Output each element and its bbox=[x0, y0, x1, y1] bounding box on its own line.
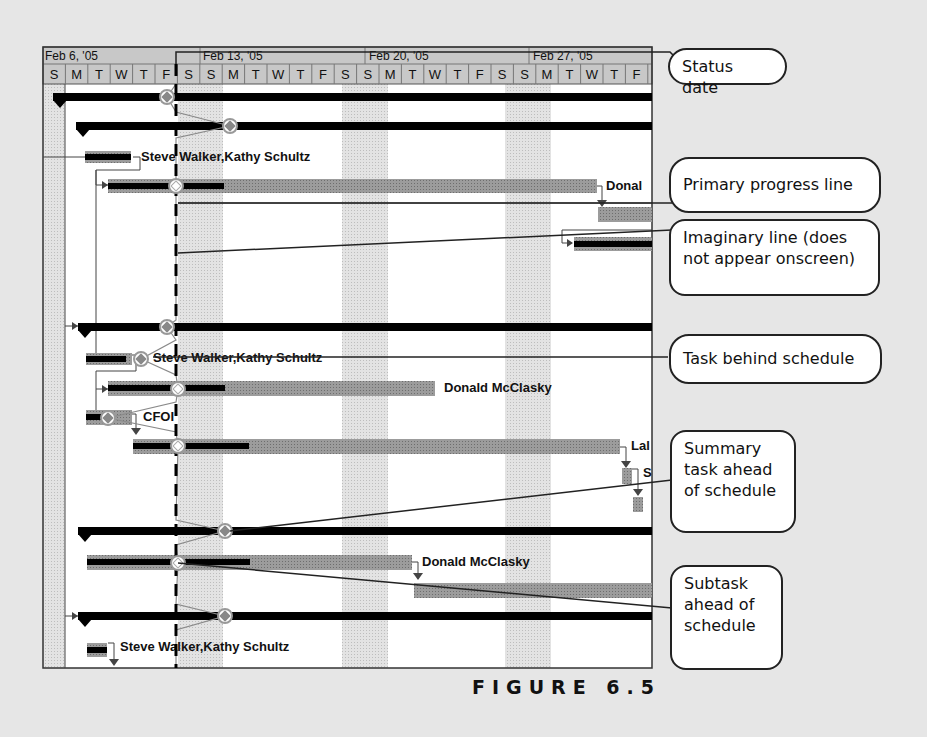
day-letter: T bbox=[95, 67, 103, 82]
day-letter: M bbox=[542, 67, 553, 82]
resource-label: Lal bbox=[631, 438, 650, 453]
callout-text: Task behind schedule bbox=[683, 349, 854, 368]
day-letter: W bbox=[272, 67, 285, 82]
day-letter: M bbox=[385, 67, 396, 82]
resource-label: Steve Walker,Kathy Schultz bbox=[141, 149, 311, 164]
callout-status-date: Status date bbox=[668, 48, 787, 85]
callout-text: Subtask ahead of schedule bbox=[684, 574, 756, 635]
resource-label: Donald McClasky bbox=[444, 380, 552, 395]
day-letter: S bbox=[498, 67, 507, 82]
day-letter: S bbox=[184, 67, 193, 82]
day-letter: T bbox=[140, 67, 148, 82]
callout-summary-ahead-of-schedule: Summary task ahead of schedule bbox=[670, 430, 796, 533]
day-letter: T bbox=[252, 67, 260, 82]
day-letter: M bbox=[71, 67, 82, 82]
day-letter: T bbox=[610, 67, 618, 82]
callout-task-behind-schedule: Task behind schedule bbox=[669, 334, 882, 384]
callout-text: Imaginary line (does not appear onscreen… bbox=[683, 228, 855, 268]
day-letter: S bbox=[50, 67, 59, 82]
day-letter: F bbox=[476, 67, 484, 82]
callout-primary-progress-line: Primary progress line bbox=[669, 157, 881, 213]
week-label: Feb 27, '05 bbox=[533, 49, 593, 63]
day-letter: S bbox=[363, 67, 372, 82]
resource-label: Donald McClasky bbox=[422, 554, 530, 569]
day-letter: T bbox=[297, 67, 305, 82]
figure-label: FIGURE 6.5 bbox=[472, 676, 661, 698]
callout-text: Summary task ahead of schedule bbox=[684, 439, 776, 500]
day-letter: T bbox=[453, 67, 461, 82]
callout-subtask-ahead-of-schedule: Subtask ahead of schedule bbox=[670, 565, 783, 670]
day-letter: T bbox=[409, 67, 417, 82]
resource-label: CFOI bbox=[143, 409, 174, 424]
day-letter: F bbox=[162, 67, 170, 82]
week-label: Feb 6, '05 bbox=[45, 49, 98, 63]
day-letter: S bbox=[207, 67, 216, 82]
day-letter: W bbox=[586, 67, 599, 82]
day-letter: S bbox=[520, 67, 529, 82]
week-label: Feb 20, '05 bbox=[369, 49, 429, 63]
day-letter: S bbox=[341, 67, 350, 82]
resource-label: S bbox=[643, 465, 652, 480]
day-letters: SMTWTFSSMTWTFSSMTWTFSSMTWTF bbox=[50, 64, 648, 84]
day-letter: M bbox=[228, 67, 239, 82]
week-label: Feb 13, '05 bbox=[203, 49, 263, 63]
callout-text: Primary progress line bbox=[683, 175, 853, 194]
callout-imaginary-line: Imaginary line (does not appear onscreen… bbox=[669, 219, 880, 296]
day-letter: W bbox=[429, 67, 442, 82]
resource-label: Donal bbox=[606, 178, 642, 193]
day-letter: T bbox=[565, 67, 573, 82]
day-letter: W bbox=[115, 67, 128, 82]
resource-label: Steve Walker,Kathy Schultz bbox=[120, 639, 290, 654]
day-letter: F bbox=[633, 67, 641, 82]
day-letter: F bbox=[319, 67, 327, 82]
